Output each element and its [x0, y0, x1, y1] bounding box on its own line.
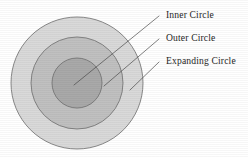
label-expanding-circle: Expanding Circle — [166, 55, 236, 66]
label-outer-circle: Outer Circle — [166, 32, 215, 43]
diagram-canvas: Inner Circle Outer Circle Expanding Circ… — [0, 0, 248, 157]
label-inner-circle: Inner Circle — [166, 9, 214, 20]
concentric-circles-diagram: Inner Circle Outer Circle Expanding Circ… — [0, 0, 248, 157]
